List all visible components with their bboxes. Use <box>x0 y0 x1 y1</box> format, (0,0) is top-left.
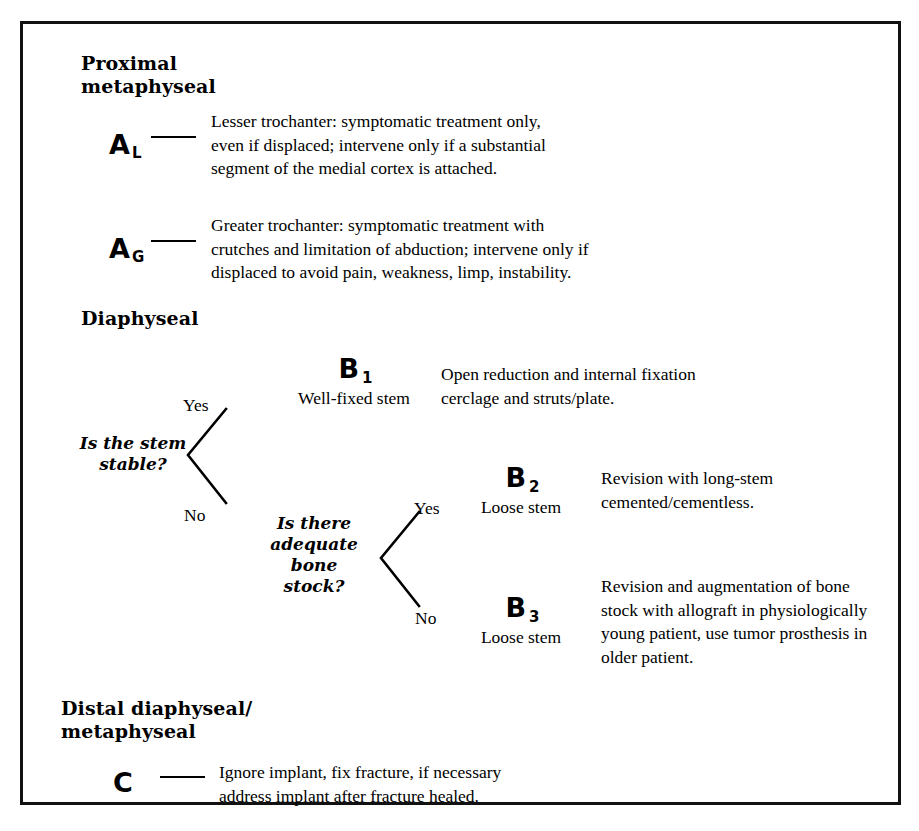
description-b2: Revision with long-stem cemented/cementl… <box>601 467 901 514</box>
description-b3: Revision and augmentation of bone stock … <box>601 575 913 669</box>
description-c: Ignore implant, fix fracture, if necessa… <box>219 761 579 808</box>
code-label-b3: B3 <box>486 594 556 626</box>
connector-dash-c <box>160 776 205 778</box>
code-letter: B <box>505 592 526 623</box>
code-subscript: L <box>132 144 142 162</box>
code-letter: B <box>338 353 359 384</box>
diagram-page: Proximal metaphyseal AL Lesser trochante… <box>0 0 919 831</box>
code-label-a-lesser: AL <box>109 131 139 163</box>
diagram-frame: Proximal metaphyseal AL Lesser trochante… <box>20 21 901 805</box>
code-subscript: 1 <box>362 369 372 387</box>
stem-state-b3: Loose stem <box>461 627 581 648</box>
code-subscript: 2 <box>529 478 539 496</box>
code-subscript: G <box>132 248 144 266</box>
description-a-greater: Greater trochanter: symptomatic treatmen… <box>211 214 611 285</box>
code-letter: C <box>113 767 133 798</box>
decision-question-bone-stock: Is there adequate bone stock? <box>253 513 375 597</box>
code-letter: A <box>109 129 130 160</box>
stem-state-b2: Loose stem <box>461 497 581 518</box>
connector-dash-a-greater <box>151 240 196 242</box>
decision-fork-stem-stable <box>178 403 238 511</box>
code-letter: A <box>109 233 130 264</box>
code-letter: B <box>505 462 526 493</box>
code-subscript: 3 <box>529 608 539 626</box>
stem-state-b1: Well-fixed stem <box>278 388 430 409</box>
decision-fork-bone-stock <box>371 506 431 614</box>
code-label-c: C <box>113 769 133 801</box>
section-heading-distal: Distal diaphyseal/ metaphyseal <box>61 697 252 743</box>
connector-dash-a-lesser <box>151 136 196 138</box>
section-heading-diaphyseal: Diaphyseal <box>81 307 198 330</box>
code-label-b2: B2 <box>486 464 556 496</box>
description-b1: Open reduction and internal fixation cer… <box>441 363 791 410</box>
code-label-a-greater: AG <box>109 235 142 267</box>
section-heading-proximal: Proximal metaphyseal <box>81 52 216 98</box>
description-a-lesser: Lesser trochanter: symptomatic treatment… <box>211 110 591 181</box>
code-label-b1: B1 <box>319 355 389 387</box>
